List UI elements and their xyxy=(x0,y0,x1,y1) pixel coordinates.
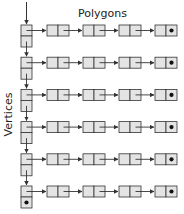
polygon-node-data-cell xyxy=(83,57,94,68)
null-pointer-icon xyxy=(24,200,28,204)
polygon-node-data-cell xyxy=(47,25,58,36)
null-pointer-icon xyxy=(169,93,173,97)
null-pointer-icon xyxy=(169,61,173,65)
polygon-node-data-cell xyxy=(155,186,166,197)
polygon-node-data-cell xyxy=(83,186,94,197)
polygon-node-data-cell xyxy=(119,89,130,100)
polygon-node-data-cell xyxy=(83,89,94,100)
polygon-node-data-cell xyxy=(47,154,58,165)
null-pointer-icon xyxy=(169,125,173,129)
polygon-node-data-cell xyxy=(47,122,58,133)
polygon-node-data-cell xyxy=(119,186,130,197)
polygon-node-data-cell xyxy=(155,57,166,68)
polygon-node-data-cell xyxy=(83,25,94,36)
polygon-node-data-cell xyxy=(47,186,58,197)
polygon-node-data-cell xyxy=(119,122,130,133)
null-pointer-icon xyxy=(169,28,173,32)
null-pointer-icon xyxy=(169,157,173,161)
polygon-node-data-cell xyxy=(47,57,58,68)
polygon-node-data-cell xyxy=(119,154,130,165)
linked-list-diagram xyxy=(0,0,184,214)
polygon-node-data-cell xyxy=(83,154,94,165)
polygon-node-data-cell xyxy=(119,25,130,36)
polygon-node-data-cell xyxy=(83,122,94,133)
polygon-node-data-cell xyxy=(47,89,58,100)
polygon-node-data-cell xyxy=(119,57,130,68)
polygon-node-data-cell xyxy=(155,89,166,100)
polygon-node-data-cell xyxy=(155,122,166,133)
polygon-node-data-cell xyxy=(155,25,166,36)
polygon-node-data-cell xyxy=(155,154,166,165)
null-pointer-icon xyxy=(169,189,173,193)
